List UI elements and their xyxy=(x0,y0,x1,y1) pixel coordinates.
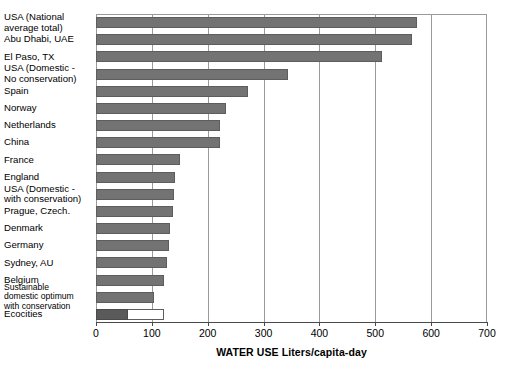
category-label: Denmark xyxy=(4,223,92,234)
x-tick-label: 100 xyxy=(143,327,161,339)
bar xyxy=(96,257,167,268)
bar xyxy=(96,17,417,28)
bar-row: Sustainabledomestic optimumwith conserva… xyxy=(0,289,511,306)
x-axis-title: WATER USE Liters/capita-day xyxy=(96,346,487,358)
category-label: Spain xyxy=(4,86,92,97)
bar-row: USA (Domestic -with conservation) xyxy=(0,186,511,203)
category-label-line: Sydney, AU xyxy=(4,258,92,269)
category-label: Ecocities xyxy=(4,309,92,320)
bar-segment xyxy=(96,309,128,320)
category-label-line: Prague, Czech. xyxy=(4,206,92,217)
x-tick-label: 400 xyxy=(311,327,329,339)
bar xyxy=(96,69,288,80)
category-label-line: Ecocities xyxy=(4,309,92,320)
x-tick-label: 600 xyxy=(422,327,440,339)
bar xyxy=(96,51,382,62)
bar xyxy=(96,206,173,217)
category-label: England xyxy=(4,172,92,183)
bar xyxy=(96,223,170,234)
category-label-line: El Paso, TX xyxy=(4,52,92,63)
bar xyxy=(96,275,164,286)
x-tick-label: 500 xyxy=(367,327,385,339)
bar xyxy=(96,137,220,148)
bar-row: Ecocities xyxy=(0,306,511,323)
bar xyxy=(96,292,154,303)
bar-row: Prague, Czech. xyxy=(0,203,511,220)
bar-row: Abu Dhabi, UAE xyxy=(0,31,511,48)
category-label-line: Spain xyxy=(4,86,92,97)
bar xyxy=(96,240,169,251)
category-label: Norway xyxy=(4,103,92,114)
category-label: France xyxy=(4,155,92,166)
category-label: Germany xyxy=(4,240,92,251)
bar-row: Netherlands xyxy=(0,117,511,134)
bar-row: France xyxy=(0,151,511,168)
category-label: USA (Domestic -No conservation) xyxy=(4,63,92,84)
bar-row: Denmark xyxy=(0,220,511,237)
category-label-line: Norway xyxy=(4,103,92,114)
bar xyxy=(96,120,220,131)
category-label-line: Netherlands xyxy=(4,120,92,131)
category-label-line: Abu Dhabi, UAE xyxy=(4,34,92,45)
category-label: El Paso, TX xyxy=(4,52,92,63)
bar-row: China xyxy=(0,134,511,151)
category-label: USA (Nationalaverage total) xyxy=(4,12,92,33)
category-label-line: Denmark xyxy=(4,223,92,234)
x-tick-label: 700 xyxy=(478,327,496,339)
x-tick-label: 200 xyxy=(199,327,217,339)
bar xyxy=(96,103,226,114)
category-label: Sydney, AU xyxy=(4,258,92,269)
bar-row: Spain xyxy=(0,83,511,100)
category-label: USA (Domestic -with conservation) xyxy=(4,184,92,205)
category-label: Abu Dhabi, UAE xyxy=(4,34,92,45)
bar xyxy=(96,34,412,45)
x-tick-label: 0 xyxy=(93,327,99,339)
category-label-line: Germany xyxy=(4,240,92,251)
x-tick-label: 300 xyxy=(255,327,273,339)
bar-row: Sydney, AU xyxy=(0,254,511,271)
bar xyxy=(96,172,175,183)
category-label: Prague, Czech. xyxy=(4,206,92,217)
category-label-line: France xyxy=(4,155,92,166)
category-label-line: USA (National xyxy=(4,12,92,23)
bar xyxy=(96,86,248,97)
bar-row: USA (Domestic -No conservation) xyxy=(0,66,511,83)
bar xyxy=(96,154,180,165)
bar-row: Germany xyxy=(0,237,511,254)
bar-row: Norway xyxy=(0,100,511,117)
category-label: China xyxy=(4,137,92,148)
bar xyxy=(96,189,174,200)
bar-row: USA (Nationalaverage total) xyxy=(0,14,511,31)
category-label-line: China xyxy=(4,137,92,148)
chart-root: 0100200300400500600700 WATER USE Liters/… xyxy=(0,0,511,371)
category-label-line: England xyxy=(4,172,92,183)
category-label: Netherlands xyxy=(4,120,92,131)
